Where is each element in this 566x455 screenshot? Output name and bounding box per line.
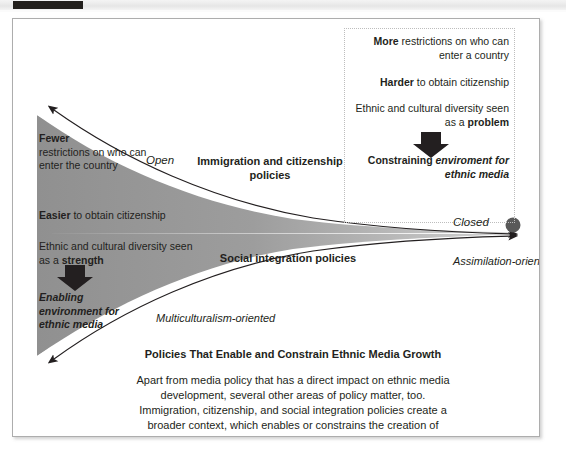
harder-bold: Harder bbox=[380, 76, 414, 88]
caption-body: Apart from media policy that has a direc… bbox=[133, 373, 453, 437]
more-restrictions-text: More restrictions on who can enter a cou… bbox=[349, 35, 509, 62]
more-rest: restrictions on who can enter a country bbox=[399, 35, 509, 61]
constraining-environment-text: Constraining enviroment for ethnic media bbox=[349, 154, 509, 181]
harder-citizenship-text: Harder to obtain citizenship bbox=[349, 76, 509, 90]
easier-citizenship-text: Easier to obtain citizenship bbox=[39, 209, 209, 223]
diversity-problem-text: Ethnic and cultural diversity seen as a … bbox=[349, 102, 509, 129]
axis-title-social-integration: Social integration policies bbox=[213, 251, 363, 265]
label-open: Open bbox=[146, 154, 174, 168]
diversity-strength-bold: strength bbox=[62, 254, 104, 266]
fewer-bold: Fewer bbox=[39, 132, 69, 144]
label-multiculturalism-oriented: Multiculturalism-oriented bbox=[156, 312, 276, 325]
axis-title-immigration: Immigration and citizenship policies bbox=[195, 154, 345, 182]
caption-title: Policies That Enable and Constrain Ethni… bbox=[93, 348, 493, 360]
fewer-rest: restrictions on who can enter the countr… bbox=[39, 146, 146, 172]
scan-bar-edge bbox=[0, 10, 566, 12]
enabling-environment-text: Enabling environment for ethnic media bbox=[39, 291, 139, 332]
label-closed: Closed bbox=[453, 216, 489, 230]
easier-bold: Easier bbox=[39, 209, 71, 221]
diversity-problem-bold: problem bbox=[468, 116, 509, 128]
constraining-plain: Constraining bbox=[368, 154, 436, 166]
easier-rest: to obtain citizenship bbox=[71, 209, 166, 221]
diversity-strength-text: Ethnic and cultural diversity seen as a … bbox=[39, 240, 199, 267]
fewer-restrictions-text: Fewer restrictions on who can enter the … bbox=[39, 132, 159, 173]
constraining-italic: enviroment for ethnic media bbox=[435, 154, 509, 180]
more-bold: More bbox=[374, 35, 399, 47]
figure-frame: CNN bbox=[12, 18, 540, 437]
harder-rest: to obtain citizenship bbox=[414, 76, 509, 88]
label-assimilation-oriented: Assimilation-oriented bbox=[453, 255, 540, 268]
scan-black-block bbox=[13, 1, 83, 9]
